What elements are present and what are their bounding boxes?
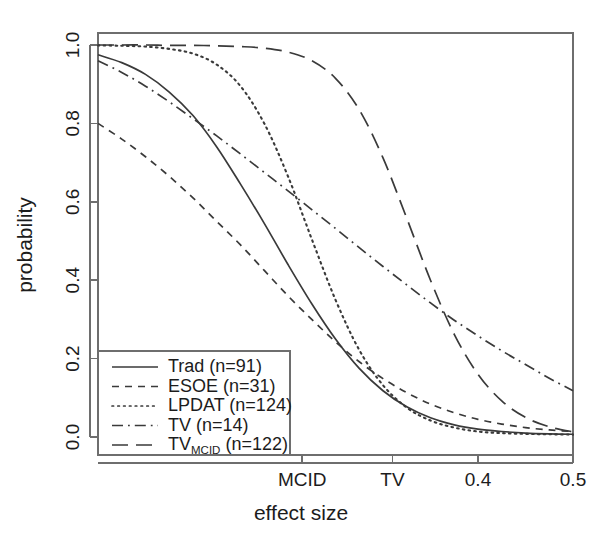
plot-canvas: 0.00.20.40.60.81.0 MCIDTV0.40.5 Trad (n=… <box>0 0 603 537</box>
y-tick-label: 1.0 <box>62 32 83 58</box>
legend-label-4: TVMCID (n=122) <box>168 434 288 456</box>
x-tick-label: TV <box>380 469 405 490</box>
y-tick-label: 0.2 <box>62 345 83 371</box>
x-axis: MCIDTV0.40.5 <box>98 455 586 490</box>
x-tick-label: 0.4 <box>465 469 492 490</box>
x-tick-label: MCID <box>278 469 327 490</box>
y-axis: 0.00.20.40.60.81.0 <box>62 32 98 450</box>
y-tick-label: 0.0 <box>62 424 83 450</box>
legend-label-2: LPDAT (n=124) <box>168 395 292 415</box>
chart-figure: 0.00.20.40.60.81.0 MCIDTV0.40.5 Trad (n=… <box>0 0 603 537</box>
x-tick-group: MCIDTV0.40.5 <box>278 455 586 490</box>
legend-label-3: TV (n=14) <box>168 415 249 435</box>
legend-label-0: Trad (n=91) <box>168 356 262 376</box>
y-tick-label: 0.8 <box>62 110 83 136</box>
curve-dashdot <box>98 61 573 391</box>
legend-label-1: ESOE (n=31) <box>168 376 276 396</box>
x-tick-label: 0.5 <box>560 469 586 490</box>
x-axis-title: effect size <box>254 501 348 524</box>
y-tick-label: 0.4 <box>62 267 83 294</box>
legend: Trad (n=91)ESOE (n=31)LPDAT (n=124)TV (n… <box>98 351 292 456</box>
y-tick-group: 0.00.20.40.60.81.0 <box>62 32 98 450</box>
y-tick-label: 0.6 <box>62 189 83 215</box>
y-axis-title: probability <box>13 197 36 293</box>
